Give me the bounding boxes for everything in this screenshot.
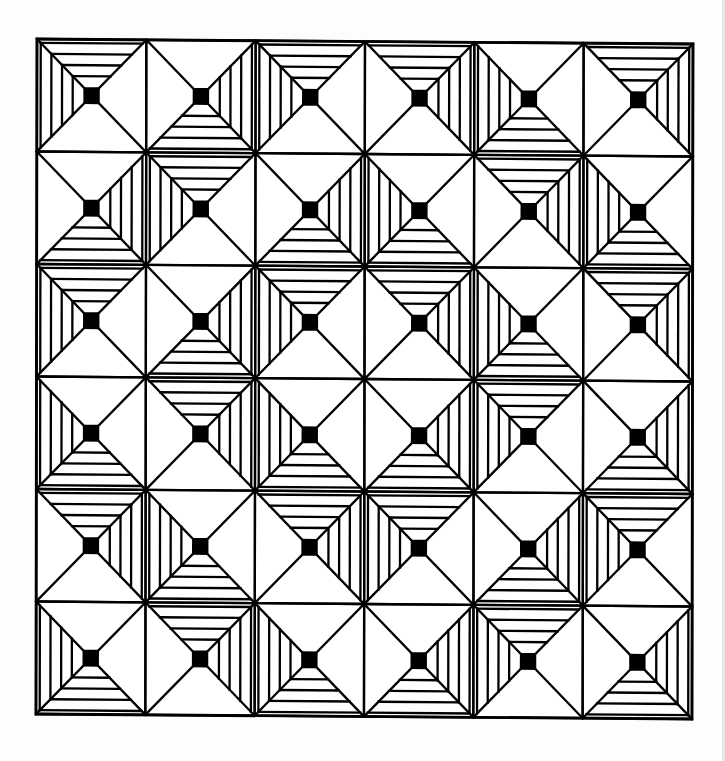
hatch-line xyxy=(270,56,350,57)
hatch-line xyxy=(51,279,131,280)
hatch-line xyxy=(478,159,580,160)
hatch-line xyxy=(161,167,241,168)
hatch-line xyxy=(269,506,349,507)
hatch-line xyxy=(269,701,349,702)
hatch-line xyxy=(378,702,458,703)
hatch-line xyxy=(149,606,251,607)
hatch-line xyxy=(40,710,142,711)
hatch-line xyxy=(368,495,470,496)
center-square xyxy=(193,200,209,217)
center-square xyxy=(302,314,318,331)
center-square xyxy=(411,202,427,219)
center-square xyxy=(301,651,317,668)
hatch-line xyxy=(41,43,143,44)
hatch-line xyxy=(586,714,688,715)
hatch-line xyxy=(587,497,689,498)
hatch-line xyxy=(150,149,252,150)
hatch-line xyxy=(379,506,459,507)
hatch-line xyxy=(587,489,689,490)
hatch-line xyxy=(51,474,131,475)
hatch-line xyxy=(50,699,130,700)
hatch-line xyxy=(259,487,361,488)
hatch-line xyxy=(478,384,580,385)
hatch-line xyxy=(160,363,240,364)
quilt-pattern xyxy=(0,0,725,761)
center-square xyxy=(302,201,318,218)
hatch-line xyxy=(259,270,361,271)
hatch-line xyxy=(40,260,142,261)
hatch-line xyxy=(368,488,470,489)
hatch-line xyxy=(587,272,689,273)
center-square xyxy=(301,539,317,556)
hatch-line xyxy=(270,251,350,252)
hatch-line xyxy=(369,45,471,46)
hatch-line xyxy=(51,54,131,55)
center-square xyxy=(630,316,646,333)
center-square xyxy=(411,90,427,107)
hatch-line xyxy=(489,170,569,171)
hatch-line xyxy=(598,253,678,254)
hatch-line xyxy=(379,477,459,478)
hatch-line xyxy=(598,283,678,284)
hatch-line xyxy=(379,56,459,57)
center-square xyxy=(83,200,99,217)
hatch-line xyxy=(597,703,677,704)
center-square xyxy=(83,537,99,554)
center-square xyxy=(521,90,537,107)
hatch-line xyxy=(259,262,361,263)
hatch-line xyxy=(150,374,252,375)
hatch-line xyxy=(587,264,689,265)
hatch-line xyxy=(51,249,131,250)
hatch-line xyxy=(379,252,459,253)
center-square xyxy=(192,538,208,555)
center-square xyxy=(411,315,427,332)
hatch-line xyxy=(488,365,568,366)
hatch-line xyxy=(259,495,361,496)
hatch-line xyxy=(40,268,142,269)
hatch-line xyxy=(149,599,251,600)
hatch-line xyxy=(258,712,360,713)
hatch-line xyxy=(161,138,241,139)
hatch-line xyxy=(489,140,569,141)
center-square xyxy=(629,541,645,558)
center-square xyxy=(192,425,208,442)
center-square xyxy=(630,91,646,108)
hatch-line xyxy=(160,588,240,589)
hatch-line xyxy=(40,485,142,486)
hatch-line xyxy=(488,590,568,591)
center-square xyxy=(521,203,537,220)
hatch-line xyxy=(597,478,677,479)
hatch-line xyxy=(160,617,240,618)
center-square xyxy=(630,429,646,446)
center-square xyxy=(629,654,645,671)
center-square xyxy=(302,89,318,106)
hatch-line xyxy=(597,508,677,509)
hatch-line xyxy=(160,392,240,393)
hatch-line xyxy=(270,281,350,282)
center-square xyxy=(411,540,427,557)
hatch-line xyxy=(598,58,678,59)
center-square xyxy=(192,313,208,330)
center-square xyxy=(83,87,99,104)
hatch-line xyxy=(368,263,470,264)
hatch-line xyxy=(587,47,689,48)
center-square xyxy=(83,425,99,442)
center-square xyxy=(520,428,536,445)
center-square xyxy=(630,204,646,221)
hatch-line xyxy=(40,493,142,494)
block-grid xyxy=(36,39,693,719)
hatch-line xyxy=(51,504,131,505)
hatch-line xyxy=(488,395,568,396)
center-square xyxy=(411,427,427,444)
center-square xyxy=(520,540,536,557)
center-square xyxy=(520,315,536,332)
hatch-line xyxy=(269,476,349,477)
hatch-line xyxy=(488,620,568,621)
hatch-line xyxy=(259,45,361,46)
hatch-line xyxy=(477,609,579,610)
hatch-line xyxy=(368,713,470,714)
hatch-line xyxy=(150,381,252,382)
hatch-line xyxy=(150,156,252,157)
center-square xyxy=(83,312,99,329)
center-square xyxy=(193,88,209,105)
